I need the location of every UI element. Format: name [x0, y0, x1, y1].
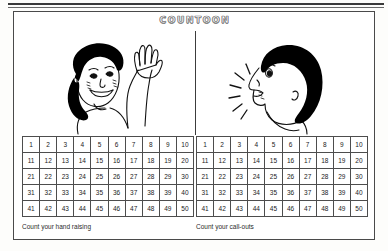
- grid-cell[interactable]: 28: [143, 169, 160, 185]
- grid-cell[interactable]: 3: [231, 137, 248, 153]
- grid-cell[interactable]: 36: [109, 185, 126, 201]
- grid-cell[interactable]: 11: [197, 153, 214, 169]
- grid-cell[interactable]: 49: [160, 201, 177, 217]
- grid-cell[interactable]: 22: [214, 169, 231, 185]
- grid-cell[interactable]: 27: [126, 169, 143, 185]
- grid-cell[interactable]: 33: [231, 185, 248, 201]
- grid-cell[interactable]: 38: [317, 185, 334, 201]
- grid-cell[interactable]: 42: [214, 201, 231, 217]
- grid-cell[interactable]: 13: [231, 153, 248, 169]
- grid-cell[interactable]: 35: [91, 185, 108, 201]
- grid-cell[interactable]: 40: [177, 185, 194, 201]
- grid-cell[interactable]: 18: [143, 153, 160, 169]
- grid-cell[interactable]: 9: [160, 137, 177, 153]
- grid-cell[interactable]: 25: [91, 169, 108, 185]
- grid-cell[interactable]: 42: [40, 201, 57, 217]
- grid-cell[interactable]: 1: [197, 137, 214, 153]
- grid-cell[interactable]: 46: [283, 201, 300, 217]
- grid-cell[interactable]: 16: [283, 153, 300, 169]
- grid-cell[interactable]: 50: [177, 201, 194, 217]
- grid-cell[interactable]: 44: [248, 201, 265, 217]
- grid-cell[interactable]: 32: [40, 185, 57, 201]
- grid-cell[interactable]: 35: [265, 185, 282, 201]
- grid-cell[interactable]: 16: [109, 153, 126, 169]
- grid-cell[interactable]: 19: [160, 153, 177, 169]
- grid-cell[interactable]: 4: [248, 137, 265, 153]
- grid-cell[interactable]: 34: [248, 185, 265, 201]
- grid-cell[interactable]: 34: [74, 185, 91, 201]
- grid-cell[interactable]: 48: [317, 201, 334, 217]
- grid-cell[interactable]: 18: [317, 153, 334, 169]
- grid-cell[interactable]: 5: [265, 137, 282, 153]
- grid-cell[interactable]: 44: [74, 201, 91, 217]
- grid-cell[interactable]: 29: [160, 169, 177, 185]
- grid-cell[interactable]: 31: [197, 185, 214, 201]
- grid-cell[interactable]: 23: [231, 169, 248, 185]
- grid-cell[interactable]: 50: [351, 201, 368, 217]
- grid-cell[interactable]: 6: [109, 137, 126, 153]
- grid-cell[interactable]: 3: [57, 137, 74, 153]
- grid-cell[interactable]: 23: [57, 169, 74, 185]
- grid-cell[interactable]: 31: [23, 185, 40, 201]
- grid-cell[interactable]: 12: [40, 153, 57, 169]
- grid-cell[interactable]: 8: [143, 137, 160, 153]
- grid-cell[interactable]: 48: [143, 201, 160, 217]
- grid-cell[interactable]: 47: [300, 201, 317, 217]
- grid-cell[interactable]: 10: [177, 137, 194, 153]
- grid-cell[interactable]: 28: [317, 169, 334, 185]
- grid-cell[interactable]: 24: [248, 169, 265, 185]
- grid-cell[interactable]: 41: [23, 201, 40, 217]
- grid-cell[interactable]: 43: [231, 201, 248, 217]
- grid-cell[interactable]: 21: [23, 169, 40, 185]
- grid-cell[interactable]: 14: [74, 153, 91, 169]
- grid-cell[interactable]: 41: [197, 201, 214, 217]
- grid-cell[interactable]: 30: [177, 169, 194, 185]
- grid-cell[interactable]: 11: [23, 153, 40, 169]
- grid-cell[interactable]: 6: [283, 137, 300, 153]
- grid-cell[interactable]: 45: [265, 201, 282, 217]
- grid-cell[interactable]: 2: [214, 137, 231, 153]
- grid-cell[interactable]: 39: [160, 185, 177, 201]
- grid-cell[interactable]: 27: [300, 169, 317, 185]
- grid-cell[interactable]: 17: [300, 153, 317, 169]
- grid-cell[interactable]: 25: [265, 169, 282, 185]
- grid-cell[interactable]: 12: [214, 153, 231, 169]
- grid-cell[interactable]: 15: [91, 153, 108, 169]
- grid-cell[interactable]: 29: [334, 169, 351, 185]
- grid-cell[interactable]: 24: [74, 169, 91, 185]
- grid-cell[interactable]: 46: [109, 201, 126, 217]
- grid-cell[interactable]: 38: [143, 185, 160, 201]
- grid-cell[interactable]: 20: [177, 153, 194, 169]
- grid-cell[interactable]: 7: [300, 137, 317, 153]
- grid-cell[interactable]: 36: [283, 185, 300, 201]
- grid-cell[interactable]: 45: [91, 201, 108, 217]
- grid-cell[interactable]: 17: [126, 153, 143, 169]
- grid-cell[interactable]: 15: [265, 153, 282, 169]
- number-grid-call-outs[interactable]: 1234567891011121314151617181920212223242…: [196, 136, 368, 217]
- grid-cell[interactable]: 21: [197, 169, 214, 185]
- grid-cell[interactable]: 19: [334, 153, 351, 169]
- grid-cell[interactable]: 20: [351, 153, 368, 169]
- grid-cell[interactable]: 37: [300, 185, 317, 201]
- grid-cell[interactable]: 30: [351, 169, 368, 185]
- grid-cell[interactable]: 47: [126, 201, 143, 217]
- grid-cell[interactable]: 40: [351, 185, 368, 201]
- grid-cell[interactable]: 26: [109, 169, 126, 185]
- grid-cell[interactable]: 39: [334, 185, 351, 201]
- grid-cell[interactable]: 22: [40, 169, 57, 185]
- grid-cell[interactable]: 5: [91, 137, 108, 153]
- grid-cell[interactable]: 37: [126, 185, 143, 201]
- grid-cell[interactable]: 43: [57, 201, 74, 217]
- grid-cell[interactable]: 13: [57, 153, 74, 169]
- grid-cell[interactable]: 8: [317, 137, 334, 153]
- grid-cell[interactable]: 49: [334, 201, 351, 217]
- number-grid-hand-raising[interactable]: 1234567891011121314151617181920212223242…: [22, 136, 194, 217]
- grid-cell[interactable]: 9: [334, 137, 351, 153]
- grid-cell[interactable]: 32: [214, 185, 231, 201]
- grid-cell[interactable]: 10: [351, 137, 368, 153]
- grid-cell[interactable]: 2: [40, 137, 57, 153]
- grid-cell[interactable]: 7: [126, 137, 143, 153]
- grid-cell[interactable]: 14: [248, 153, 265, 169]
- grid-cell[interactable]: 1: [23, 137, 40, 153]
- grid-cell[interactable]: 26: [283, 169, 300, 185]
